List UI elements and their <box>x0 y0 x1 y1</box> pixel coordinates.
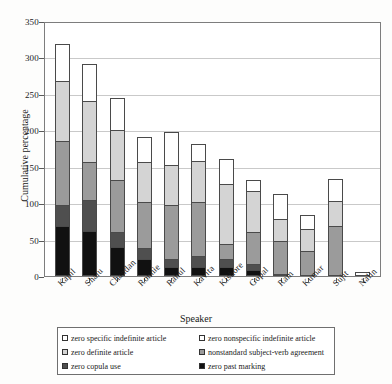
bar-segment <box>164 132 179 166</box>
bar-segment <box>300 215 315 229</box>
bar-segment <box>137 137 152 162</box>
bar-segment <box>55 141 70 205</box>
bar-ronnie[interactable] <box>137 137 152 276</box>
plot-area <box>44 22 381 277</box>
legend-item[interactable]: zero nonspecific indefinite article <box>199 334 330 343</box>
bar-segment <box>55 81 70 141</box>
x-tick: Chandan <box>109 279 124 315</box>
legend-swatch <box>199 349 205 355</box>
x-tick: Ronnie <box>136 279 151 315</box>
bar-segment <box>246 232 261 264</box>
bar-segment <box>273 219 288 241</box>
bar-chandan[interactable] <box>110 98 125 276</box>
legend-label: zero nonspecific indefinite article <box>208 334 315 343</box>
bar-segment <box>82 200 97 231</box>
x-tick: Ram <box>273 279 288 315</box>
bar-segment <box>191 161 206 202</box>
x-tick: Kishore <box>219 279 234 315</box>
bar-segment <box>82 162 97 199</box>
bar-rahul[interactable] <box>164 132 179 276</box>
x-tick: Kavita <box>191 279 206 315</box>
x-tick: Kumar <box>301 279 316 315</box>
bar-ram[interactable] <box>273 194 288 276</box>
legend-label: zero definite article <box>71 348 133 357</box>
bar-segment <box>246 180 261 191</box>
bar-segment <box>82 101 97 162</box>
y-tick-label: 50 <box>30 236 39 245</box>
legend-item[interactable]: zero definite article <box>62 348 199 357</box>
bar-kavita[interactable] <box>191 144 206 276</box>
legend-item[interactable]: zero copula use <box>62 362 199 371</box>
bar-segment <box>273 194 288 220</box>
bar-sujit[interactable] <box>328 179 343 276</box>
bar-segment <box>164 259 179 267</box>
legend-label: nonstandard subject-verb agreement <box>208 348 324 357</box>
bar-segment <box>164 165 179 205</box>
y-tick-mark <box>39 277 44 278</box>
bar-segment <box>110 98 125 131</box>
legend-label: zero past marking <box>208 362 265 371</box>
bar-segment <box>328 201 343 227</box>
bar-segment <box>328 226 343 276</box>
bar-segment <box>191 202 206 257</box>
bar-shalu[interactable] <box>82 64 97 276</box>
legend-row: zero specific indefinite articlezero non… <box>62 331 330 345</box>
x-tick: Sujit <box>328 279 343 315</box>
bar-kishore[interactable] <box>219 159 234 276</box>
bar-segment <box>191 256 206 266</box>
legend-row: zero copula usezero past marking <box>62 359 330 373</box>
bar-segment <box>110 180 125 232</box>
bar-segment <box>300 229 315 251</box>
bar-segment <box>137 248 152 260</box>
bar-segment <box>246 191 261 233</box>
bar-segment <box>191 144 206 161</box>
bar-segment <box>219 184 234 244</box>
x-axis-title: Speaker <box>0 313 392 324</box>
bar-segment <box>55 205 70 227</box>
bar-segment <box>137 162 152 203</box>
legend-swatch <box>62 335 68 341</box>
bar-segment <box>137 202 152 247</box>
bar-gopal[interactable] <box>246 180 261 276</box>
legend-item[interactable]: zero specific indefinite article <box>62 334 199 343</box>
legend-swatch <box>199 363 205 369</box>
y-tick-label: 350 <box>25 18 39 27</box>
bar-group <box>45 23 380 276</box>
x-tick: Rahul <box>164 279 179 315</box>
x-tick: Nalin <box>356 279 371 315</box>
bar-kapil[interactable] <box>55 44 70 276</box>
y-axis-title: Cumulative percentage <box>19 76 30 236</box>
bar-segment <box>55 44 70 80</box>
y-tick-label: 300 <box>25 54 39 63</box>
legend-swatch <box>62 349 68 355</box>
x-tick: Shalu <box>82 279 97 315</box>
bar-segment <box>82 64 97 101</box>
legend-label: zero copula use <box>71 362 121 371</box>
legend: zero specific indefinite articlezero non… <box>57 327 335 375</box>
x-tick: Kapil <box>54 279 69 315</box>
bar-segment <box>110 130 125 180</box>
bar-segment <box>219 244 234 259</box>
bar-segment <box>328 179 343 201</box>
bar-segment <box>110 232 125 247</box>
legend-item[interactable]: zero past marking <box>199 362 330 371</box>
x-tick: Gopal <box>246 279 261 315</box>
legend-swatch <box>62 363 68 369</box>
legend-label: zero specific indefinite article <box>71 334 166 343</box>
x-axis: KapilShaluChandanRonnieRahulKavitaKishor… <box>44 279 381 315</box>
bar-segment <box>164 205 179 258</box>
legend-swatch <box>199 335 205 341</box>
legend-row: zero definite articlenonstandard subject… <box>62 345 330 359</box>
bar-segment <box>219 159 234 184</box>
legend-item[interactable]: nonstandard subject-verb agreement <box>199 348 330 357</box>
chart-figure: 050100150200250300350 Cumulative percent… <box>0 0 392 384</box>
